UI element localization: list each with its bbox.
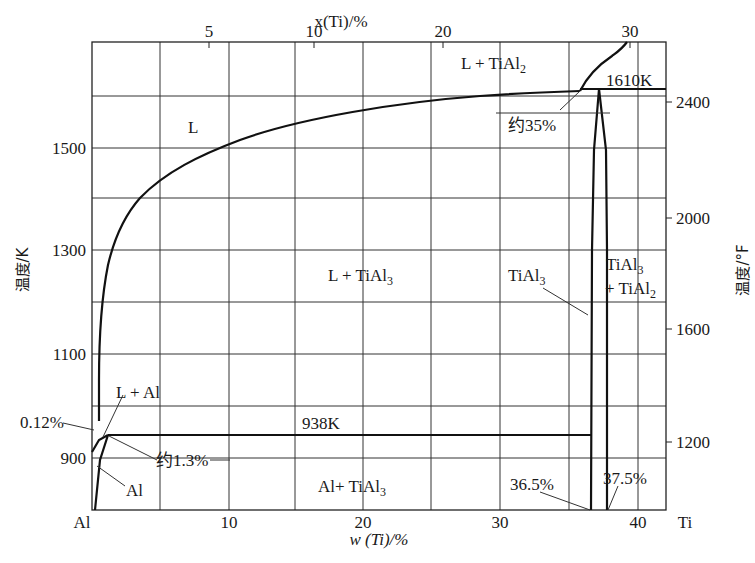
right-ticks xyxy=(666,102,672,442)
region-tial3: TiAl3 xyxy=(508,266,546,288)
region-tial3-tial2-line2: + TiAl2 xyxy=(605,279,656,301)
left-tick-1300: 1300 xyxy=(52,241,86,260)
pct-0-12-label: 0.12% xyxy=(20,413,64,432)
bottom-tick-10: 10 xyxy=(221,513,238,532)
top-tick-20: 20 xyxy=(435,22,452,41)
bottom-axis-label: w (Ti)/% xyxy=(349,530,408,549)
right-axis-label: 温度/°F xyxy=(734,244,752,295)
region-al: Al xyxy=(126,481,143,500)
right-tick-1200: 1200 xyxy=(676,433,710,452)
right-tick-2000: 2000 xyxy=(676,209,710,228)
leader-lines xyxy=(63,91,618,510)
tial3-left-boundary xyxy=(591,89,599,510)
region-al-tial3: Al+ TiAl3 xyxy=(318,477,386,499)
al-ti-phase-diagram: x(Ti)/% w (Ti)/% Al Ti 10 20 30 40 5 10 … xyxy=(0,0,755,563)
region-l-al: L + Al xyxy=(116,383,160,402)
top-tick-5: 5 xyxy=(205,22,214,41)
left-tick-1500: 1500 xyxy=(52,139,86,158)
region-l-tial2: L + TiAl2 xyxy=(461,54,526,76)
left-tick-900: 900 xyxy=(61,449,87,468)
temp-938k-label: 938K xyxy=(302,414,341,433)
pct-37-5-label: 37.5% xyxy=(603,469,647,488)
tial3-right-boundary xyxy=(599,89,607,510)
pct-36-5-label: 36.5% xyxy=(510,475,554,494)
top-tick-10: 10 xyxy=(306,22,323,41)
liquidus-curve xyxy=(99,91,580,421)
ti-end-label: Ti xyxy=(678,513,693,532)
pct-35-label: 约35% xyxy=(508,116,556,135)
right-tick-2400: 2400 xyxy=(676,93,710,112)
left-tick-1100: 1100 xyxy=(53,345,86,364)
al-end-label: Al xyxy=(74,513,91,532)
top-tick-30: 30 xyxy=(622,22,639,41)
bottom-tick-30: 30 xyxy=(492,513,509,532)
temp-1610k-label: 1610K xyxy=(606,71,653,90)
pct-1-3-label: 约1.3% xyxy=(156,451,208,470)
bottom-tick-20: 20 xyxy=(355,513,372,532)
left-axis-label: 温度/K xyxy=(14,246,32,292)
top-ticks xyxy=(209,42,630,48)
region-l: L xyxy=(188,118,198,137)
bottom-tick-40: 40 xyxy=(630,513,647,532)
region-l-tial3: L + TiAl3 xyxy=(328,266,393,288)
right-tick-1600: 1600 xyxy=(676,320,710,339)
